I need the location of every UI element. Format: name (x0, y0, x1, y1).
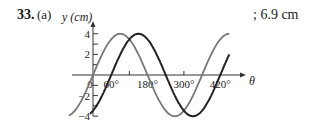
y-tick-label: 2 (85, 48, 91, 60)
y-tick-label: −4 (78, 110, 90, 122)
x-tick-label: 420° (210, 78, 231, 90)
x-tick-label: 180° (137, 78, 158, 90)
y-axis-label: y (cm) (61, 10, 92, 24)
x-axis-label: θ (249, 74, 255, 88)
x-tick-label: 300° (173, 78, 194, 90)
x-axis-arrow-icon (240, 73, 246, 78)
y-tick-label: 4 (85, 28, 91, 40)
sine-wave-chart: 42−2−4060°180°300°420°y (cm)θ (0, 0, 311, 130)
